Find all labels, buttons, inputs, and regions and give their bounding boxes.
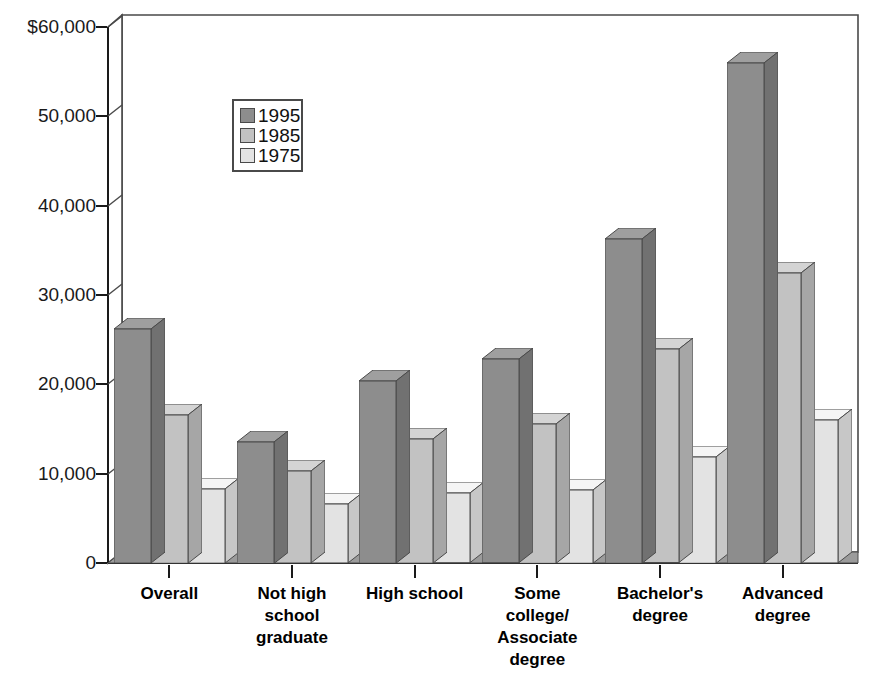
y-axis-tick-mark — [96, 383, 107, 385]
y-axis-depth-line — [107, 194, 123, 207]
y-axis-tick-mark — [96, 26, 107, 28]
legend-label-1975: 1975 — [258, 146, 300, 165]
y-axis-tick-label: 40,000 — [38, 195, 96, 217]
x-axis-category-label: Overall — [98, 583, 241, 605]
y-axis-tick-label: 20,000 — [38, 373, 96, 395]
y-axis-tick-mark — [96, 115, 107, 117]
legend-item: 1995 — [240, 106, 294, 125]
y-axis-tick-label: 10,000 — [38, 463, 96, 485]
bar — [482, 348, 533, 563]
bar-3d-shape — [114, 318, 165, 563]
legend-item: 1985 — [240, 126, 294, 145]
legend-label-1995: 1995 — [258, 106, 300, 125]
x-axis-tick-mark — [659, 565, 661, 578]
bar-3d-shape — [605, 228, 656, 563]
y-axis-tick-label: 0 — [85, 552, 96, 574]
bar — [727, 52, 778, 563]
bar-3d-shape — [482, 348, 533, 563]
bar — [114, 318, 165, 563]
y-axis-tick-label: 30,000 — [38, 284, 96, 306]
x-axis-category-label: Some college/ Associate degree — [466, 583, 609, 671]
y-axis-tick-mark — [96, 562, 107, 564]
x-axis-tick-mark — [536, 565, 538, 578]
x-axis-tick-mark — [291, 565, 293, 578]
bar — [605, 228, 656, 563]
x-axis-category-label: Not high school graduate — [221, 583, 364, 649]
bar — [237, 431, 288, 563]
chart-canvas: 010,00020,00030,00040,00050,000$60,000 O… — [0, 0, 879, 691]
y-axis-tick-mark — [96, 294, 107, 296]
y-axis-depth-line — [107, 283, 123, 296]
x-axis-tick-mark — [168, 565, 170, 578]
y-axis-depth-line — [107, 15, 123, 28]
legend-swatch-1995 — [240, 108, 255, 123]
x-axis-category-label: Advanced degree — [711, 583, 854, 627]
legend-swatch-1975 — [240, 148, 255, 163]
bar-3d-shape — [237, 431, 288, 563]
y-axis-tick-label: $60,000 — [27, 16, 96, 38]
legend-swatch-1985 — [240, 128, 255, 143]
y-axis-tick-mark — [96, 205, 107, 207]
bar — [359, 370, 410, 563]
bar-3d-shape — [727, 52, 778, 563]
legend-label-1985: 1985 — [258, 126, 300, 145]
x-axis-tick-mark — [414, 565, 416, 578]
y-axis-tick-label: 50,000 — [38, 105, 96, 127]
x-axis-category-label: Bachelor's degree — [589, 583, 732, 627]
y-axis-depth-line — [107, 104, 123, 117]
x-axis-tick-mark — [782, 565, 784, 578]
x-axis-category-label: High school — [343, 583, 486, 605]
y-axis-tick-mark — [96, 473, 107, 475]
legend-item: 1975 — [240, 146, 294, 165]
bar-3d-shape — [359, 370, 410, 563]
chart-legend: 1995 1985 1975 — [232, 99, 303, 172]
